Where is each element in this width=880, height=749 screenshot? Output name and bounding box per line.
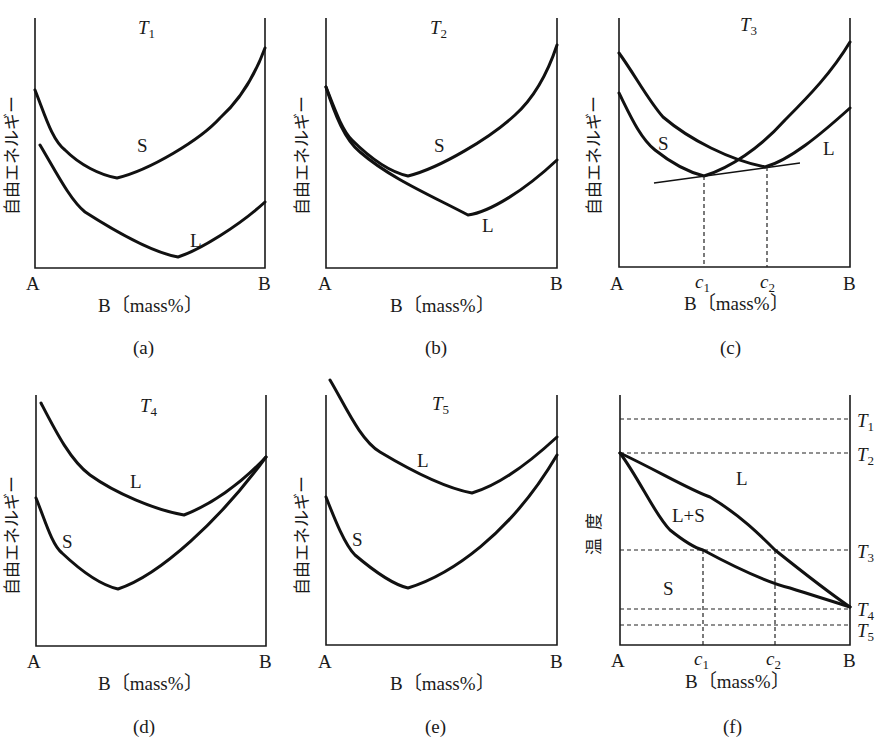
panel-f: L L+S S T1 T2 T3 T4 T5 A B c1 c2 B〔mass%… — [584, 395, 875, 738]
svg-text:自由エネルギー: 自由エネルギー — [584, 96, 604, 215]
svg-text:A: A — [318, 273, 332, 294]
svg-text:B〔mass%〕: B〔mass%〕 — [390, 295, 495, 316]
svg-text:B〔mass%〕: B〔mass%〕 — [98, 295, 203, 316]
svg-text:B: B — [258, 273, 271, 294]
svg-text:B: B — [259, 651, 272, 672]
svg-text:B〔mass%〕: B〔mass%〕 — [685, 671, 790, 692]
svg-text:A: A — [27, 651, 41, 672]
svg-text:B〔mass%〕: B〔mass%〕 — [390, 673, 495, 694]
svg-text:(f): (f) — [723, 716, 742, 738]
svg-text:L+S: L+S — [672, 505, 705, 526]
svg-text:S: S — [352, 529, 363, 550]
svg-text:T3: T3 — [740, 14, 757, 38]
svg-text:c1: c1 — [695, 271, 710, 295]
svg-text:(b): (b) — [425, 337, 447, 359]
svg-text:B〔mass%〕: B〔mass%〕 — [98, 673, 203, 694]
svg-text:T5: T5 — [857, 620, 874, 644]
svg-text:A: A — [26, 273, 40, 294]
svg-text:自由エネルギー: 自由エネルギー — [292, 96, 312, 215]
svg-text:自由エネルギー: 自由エネルギー — [2, 96, 22, 215]
phase-diagram-figure: T1 S L A B B〔mass%〕 (a) 自由エネルギー T2 S L A… — [0, 0, 880, 749]
svg-text:温度: 温度 — [584, 505, 604, 555]
svg-text:c2: c2 — [766, 648, 781, 672]
temp-label: T1 — [138, 17, 155, 41]
svg-text:A: A — [610, 273, 624, 294]
svg-text:T3: T3 — [857, 541, 874, 565]
svg-text:T1: T1 — [857, 410, 874, 434]
svg-text:A: A — [611, 650, 625, 671]
svg-text:S: S — [434, 135, 445, 156]
svg-text:B: B — [843, 650, 856, 671]
svg-text:(d): (d) — [133, 716, 155, 738]
svg-text:(a): (a) — [133, 337, 154, 359]
svg-text:T4: T4 — [140, 395, 158, 419]
svg-text:(c): (c) — [720, 337, 741, 359]
svg-text:自由エネルギー: 自由エネルギー — [2, 476, 22, 595]
svg-text:L: L — [190, 230, 202, 251]
panel-e: T5 L S A B B〔mass%〕 (e) 自由エネルギー — [292, 380, 563, 738]
svg-text:L: L — [417, 450, 429, 471]
svg-text:L: L — [736, 468, 748, 489]
svg-text:T5: T5 — [432, 393, 449, 417]
panel-d: T4 L S A B B〔mass%〕 (d) 自由エネルギー — [2, 395, 272, 738]
svg-text:T2: T2 — [857, 444, 874, 468]
svg-text:S: S — [663, 578, 674, 599]
svg-text:B: B — [550, 273, 563, 294]
svg-text:c1: c1 — [694, 648, 709, 672]
svg-text:B〔mass%〕: B〔mass%〕 — [684, 293, 789, 314]
svg-text:T2: T2 — [430, 17, 447, 41]
svg-text:A: A — [318, 651, 332, 672]
svg-text:S: S — [137, 135, 148, 156]
svg-text:L: L — [823, 138, 835, 159]
svg-text:S: S — [62, 531, 73, 552]
svg-text:B: B — [550, 651, 563, 672]
svg-text:c2: c2 — [760, 271, 775, 295]
svg-text:(e): (e) — [425, 716, 446, 738]
panel-a: T1 S L A B B〔mass%〕 (a) 自由エネルギー — [2, 17, 271, 359]
svg-text:L: L — [130, 471, 142, 492]
panel-c: T3 S L A B c1 c2 B〔mass%〕 (c) 自由エネルギー — [584, 14, 856, 359]
svg-text:S: S — [658, 133, 669, 154]
svg-text:自由エネルギー: 自由エネルギー — [292, 476, 312, 595]
svg-text:B: B — [843, 273, 856, 294]
panel-b: T2 S L A B B〔mass%〕 (b) 自由エネルギー — [292, 17, 563, 359]
svg-text:L: L — [482, 215, 494, 236]
